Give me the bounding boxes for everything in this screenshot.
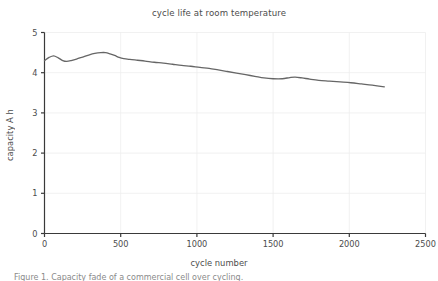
line-chart-plot: 01234505001000150020002500 [0,0,438,281]
gridlines-group [45,33,426,234]
y-axis-tick-label: 4 [32,68,37,78]
axis-tick-labels-group: 01234505001000150020002500 [32,28,436,249]
x-axis-label: cycle number [0,258,438,268]
x-axis-tick-label: 500 [113,239,129,249]
x-axis-tick-label: 1500 [263,239,284,249]
data-series-group [45,52,385,86]
figure-container: cycle life at room temperature 012345050… [0,0,438,281]
y-axis-tick-label: 0 [32,229,37,239]
x-axis-tick-label: 0 [42,239,47,249]
data-line-capacity [45,52,385,86]
axis-ticks-group [41,33,426,238]
axis-spines-group [45,33,426,234]
y-axis-label: capacity A h [3,100,17,170]
y-axis-tick-label: 3 [32,108,37,118]
y-axis-tick-label: 2 [32,148,37,158]
x-axis-tick-label: 1000 [186,239,207,249]
y-axis-tick-label: 1 [32,188,37,198]
x-axis-tick-label: 2500 [415,239,436,249]
figure-caption: Figure 1. Capacity fade of a commercial … [14,273,434,281]
x-axis-tick-label: 2000 [339,239,360,249]
y-axis-tick-label: 5 [32,28,37,38]
